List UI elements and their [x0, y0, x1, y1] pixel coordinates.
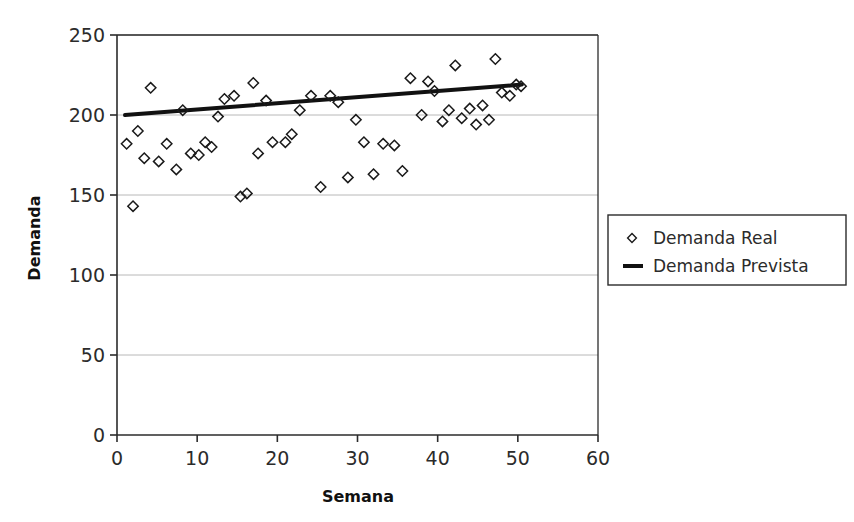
x-tick-label-40: 40 [426, 447, 450, 469]
x-tick-label-50: 50 [506, 447, 530, 469]
x-tick-label-20: 20 [265, 447, 289, 469]
y-tick-label-50: 50 [81, 344, 105, 366]
legend-label-demanda-real: Demanda Real [653, 228, 778, 248]
legend: Demanda Real Demanda Prevista [608, 215, 846, 285]
x-tick-label-30: 30 [345, 447, 369, 469]
y-tick-label-100: 100 [69, 264, 105, 286]
legend-label-demanda-prevista: Demanda Prevista [653, 256, 809, 276]
y-axis-title: Demanda [25, 195, 44, 280]
y-tick-label-0: 0 [93, 424, 105, 446]
y-tick-label-150: 150 [69, 184, 105, 206]
y-tick-label-250: 250 [69, 24, 105, 46]
x-tick-label-0: 0 [111, 447, 123, 469]
chart-container: 050100150200250 0102030405060 Demanda Se… [0, 0, 854, 522]
demand-scatter-chart: 050100150200250 0102030405060 Demanda Se… [0, 0, 854, 522]
x-tick-label-60: 60 [586, 447, 610, 469]
x-axis-title: Semana [322, 487, 394, 506]
x-tick-label-10: 10 [185, 447, 209, 469]
y-tick-label-200: 200 [69, 104, 105, 126]
